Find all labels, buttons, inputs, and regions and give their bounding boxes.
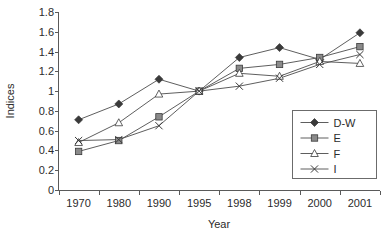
y-axis-title: Indices [4,83,16,118]
x-tick-label: 1990 [147,197,171,209]
chart-page: 00.20.40.60.811.21.41.61.8 1970198019901… [0,0,392,236]
legend-label: F [334,148,341,160]
x-tick-label: 1998 [227,197,251,209]
data-point-f-1980 [115,119,123,126]
x-tick-label: 1970 [66,197,90,209]
line-chart: 00.20.40.60.811.21.41.61.8 1970198019901… [0,0,392,236]
y-tick-label: 0.4 [39,144,54,156]
y-tick-label: 0 [48,184,54,196]
chart-legend[interactable]: D-WEFI [293,111,377,179]
legend-label: I [334,163,337,175]
x-tick-label: 1999 [267,197,291,209]
y-tick-label: 1 [48,85,54,97]
data-point-e-1990 [156,114,162,120]
data-point-d-w-2001 [356,29,364,37]
series-line-d-w [79,33,360,120]
y-tick-label: 0.8 [39,105,54,117]
x-tick-label: 2000 [307,197,331,209]
y-tick-label: 1.2 [39,65,54,77]
x-axis-tick-labels: 19701980199019951998199920002001 [66,197,372,209]
data-point-d-w-1970 [75,116,83,124]
x-tick-label: 1995 [187,197,211,209]
data-point-d-w-1980 [115,100,123,108]
y-tick-label: 0.6 [39,125,54,137]
legend-marker-filled-square [311,135,317,141]
legend-label: D-W [334,117,357,129]
y-tick-label: 1.6 [39,26,54,38]
data-point-e-2001 [357,43,363,49]
data-point-d-w-1990 [155,75,163,83]
x-axis-tick-marks [60,191,381,196]
y-tick-label: 1.8 [39,6,54,18]
x-tick-label: 2001 [348,197,372,209]
data-point-f-1970 [75,139,83,146]
y-tick-label: 1.4 [39,46,54,58]
y-axis-tick-marks [55,13,59,191]
data-point-i-2001 [356,51,363,58]
data-point-e-1970 [75,148,81,154]
data-point-d-w-1999 [276,44,284,52]
y-axis-tick-labels: 00.20.40.60.811.21.41.61.8 [39,6,54,196]
x-tick-label: 1980 [107,197,131,209]
data-point-e-1980 [116,137,122,143]
x-axis-title: Year [208,218,231,230]
y-tick-label: 0.2 [39,164,54,176]
legend-label: E [334,132,341,144]
data-point-e-1999 [276,61,282,67]
data-point-i-1990 [155,122,162,129]
